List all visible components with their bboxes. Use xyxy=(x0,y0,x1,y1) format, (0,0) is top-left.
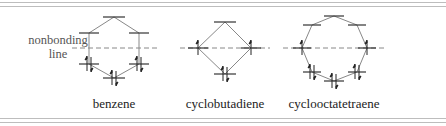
nonbonding-label: nonbonding line xyxy=(28,33,88,61)
electrons xyxy=(196,40,251,82)
nonbonding-label-line1: nonbonding xyxy=(28,33,88,47)
benzene-label: benzene xyxy=(93,96,136,111)
electron-pairs xyxy=(85,56,143,86)
nonbonding-label-line2: line xyxy=(49,47,68,61)
mo-diagram: nonbonding line xyxy=(0,0,446,126)
cyclooctatetraene-diagram: cyclooctatetraene xyxy=(283,16,384,111)
cyclobutadiene-diagram: cyclobutadiene xyxy=(180,22,270,111)
cyclobutadiene-label: cyclobutadiene xyxy=(186,96,265,111)
benzene-diagram: benzene xyxy=(72,17,160,111)
electrons xyxy=(300,40,367,89)
cyclooctatetraene-label: cyclooctatetraene xyxy=(289,96,380,111)
